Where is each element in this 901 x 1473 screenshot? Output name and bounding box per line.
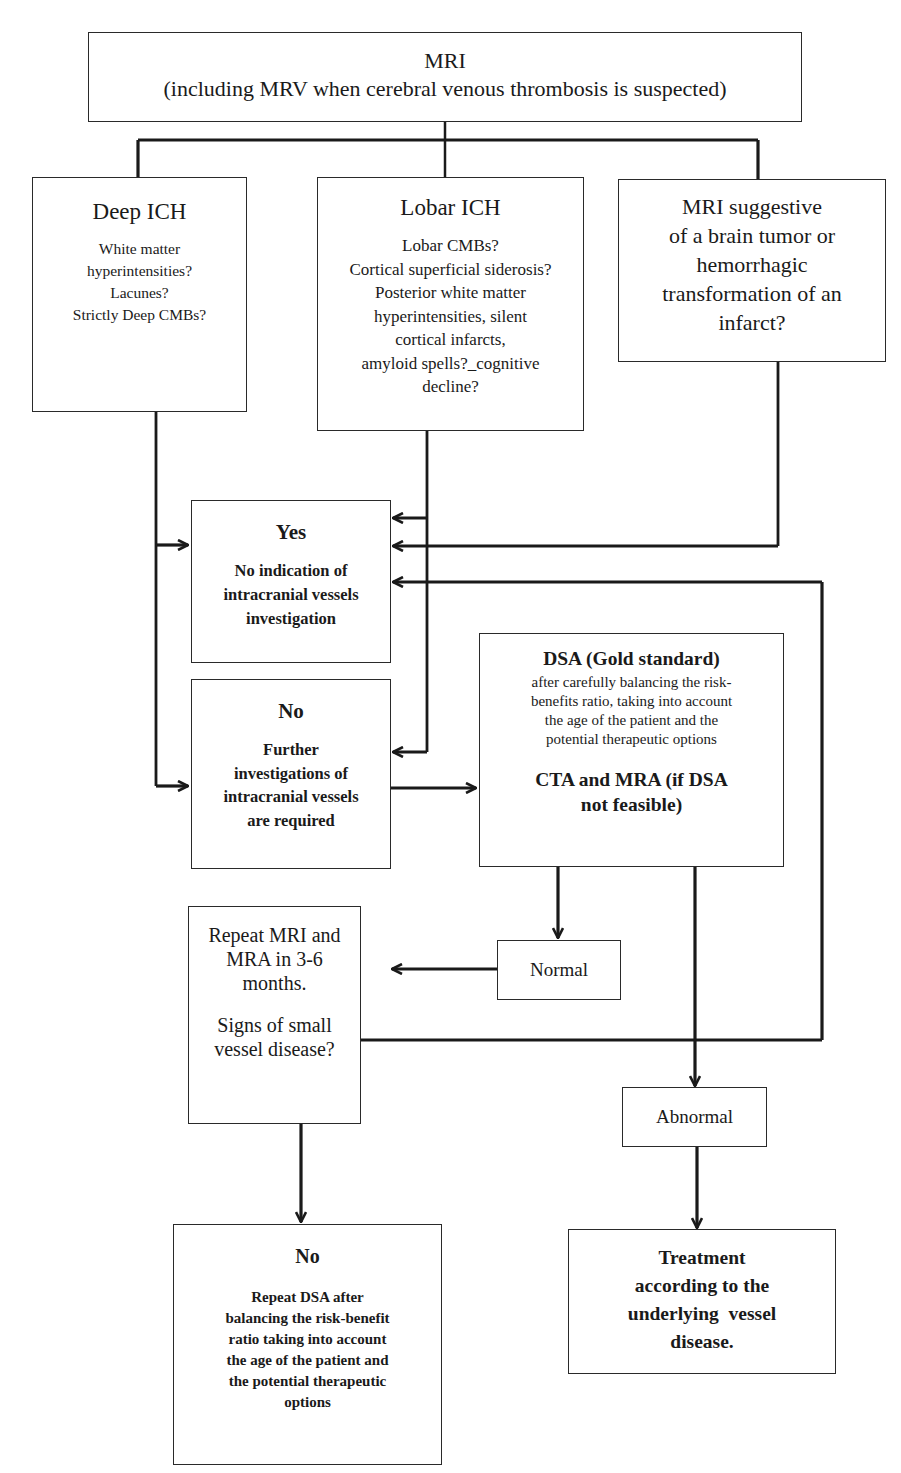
no-node-title: No — [192, 698, 390, 724]
repeat-dsa-title: No — [174, 1243, 441, 1269]
lobar-ich-title: Lobar ICH — [318, 194, 583, 222]
tumor-node: MRI suggestive of a brain tumor or hemor… — [618, 179, 886, 362]
yes-node: Yes No indication of intracranial vessel… — [191, 500, 391, 663]
mri-node: MRI (including MRV when cerebral venous … — [88, 32, 802, 122]
yes-node-text: No indication of intracranial vessels in… — [192, 559, 390, 631]
treatment-text: Treatment according to the underlying ve… — [569, 1244, 835, 1356]
no-node-text: Further investigations of intracranial v… — [192, 738, 390, 832]
no-node: No Further investigations of intracrania… — [191, 679, 391, 869]
lobar-ich-criteria: Lobar CMBs? Cortical superficial sideros… — [318, 234, 583, 399]
lobar-ich-node: Lobar ICH Lobar CMBs? Cortical superfici… — [317, 177, 584, 431]
abnormal-node: Abnormal — [622, 1087, 767, 1147]
dsa-node: DSA (Gold standard) after carefully bala… — [479, 633, 784, 867]
mri-node-subtitle: (including MRV when cerebral venous thro… — [89, 75, 801, 103]
dsa-node-alternative: CTA and MRA (if DSA not feasible) — [480, 767, 783, 817]
normal-node: Normal — [497, 940, 621, 1000]
tumor-question: MRI suggestive of a brain tumor or hemor… — [619, 192, 885, 337]
deep-ich-node: Deep ICH White matter hyperintensities? … — [32, 177, 247, 412]
mri-node-title: MRI — [89, 47, 801, 75]
normal-label: Normal — [530, 959, 588, 980]
deep-ich-title: Deep ICH — [33, 198, 246, 226]
repeat-mri-text: Repeat MRI and MRA in 3-6 months. — [189, 923, 360, 995]
deep-ich-criteria: White matter hyperintensities? Lacunes? … — [33, 238, 246, 326]
yes-node-title: Yes — [192, 519, 390, 545]
treatment-node: Treatment according to the underlying ve… — [568, 1229, 836, 1374]
abnormal-label: Abnormal — [656, 1106, 733, 1127]
dsa-node-title: DSA (Gold standard) — [480, 646, 783, 671]
repeat-dsa-node: No Repeat DSA after balancing the risk-b… — [173, 1224, 442, 1465]
small-vessel-question: Signs of small vessel disease? — [189, 1013, 360, 1061]
repeat-mri-node: Repeat MRI and MRA in 3-6 months. Signs … — [188, 906, 361, 1124]
dsa-node-text: after carefully balancing the risk- bene… — [480, 673, 783, 749]
repeat-dsa-text: Repeat DSA after balancing the risk-bene… — [174, 1287, 441, 1413]
